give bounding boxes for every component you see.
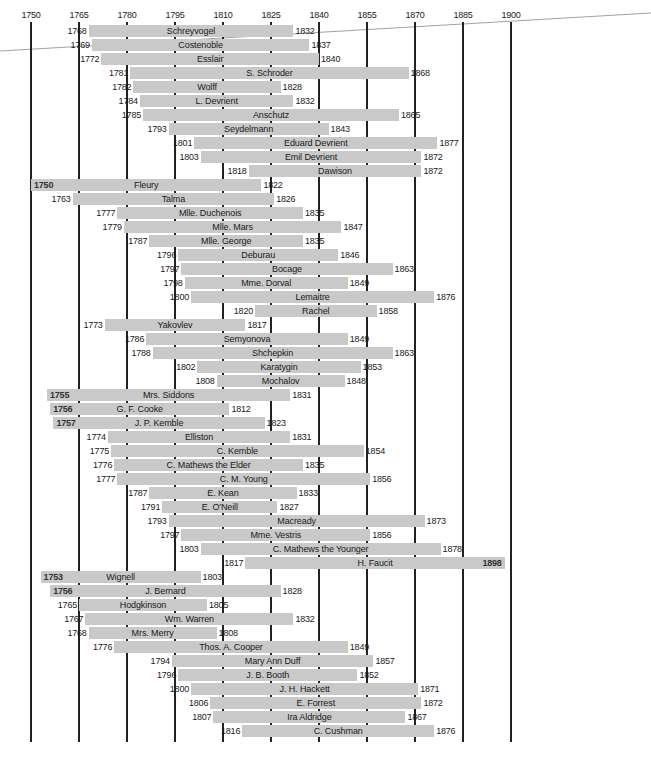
x-tick-label: 1885	[453, 10, 472, 20]
start-year-label: 1768	[67, 25, 86, 37]
end-year-label: 1831	[292, 389, 311, 401]
x-tick-label: 1855	[357, 10, 376, 20]
start-year-label: 1793	[147, 515, 166, 527]
x-tick-label: 1780	[117, 10, 136, 20]
start-year-label: 1756	[53, 585, 72, 597]
bar-name-label: Mary Ann Duff	[245, 655, 301, 667]
x-tick-label: 1900	[501, 10, 520, 20]
end-year-label: 1867	[407, 711, 426, 723]
end-year-label: 1812	[231, 403, 250, 415]
bar-name-label: Mlle. Duchenois	[179, 207, 242, 219]
start-year-label: 1753	[44, 571, 63, 583]
bar-name-label: Mrs. Merry	[132, 627, 174, 639]
end-year-label: 1832	[295, 25, 314, 37]
start-year-label: 1787	[128, 235, 147, 247]
end-year-label: 1835	[305, 207, 324, 219]
end-year-label: 1828	[283, 81, 302, 93]
lifespan-timeline-chart: 1750176517801795181018251840185518701885…	[0, 0, 651, 759]
end-year-label: 1835	[305, 459, 324, 471]
end-year-label: 1835	[305, 235, 324, 247]
start-year-label: 1776	[93, 459, 112, 471]
start-year-label: 1796	[157, 249, 176, 261]
bar-name-label: E. O'Neill	[202, 501, 238, 513]
start-year-label: 1786	[125, 333, 144, 345]
bar-name-label: C. Mathews the Elder	[167, 459, 251, 471]
start-year-label: 1775	[90, 445, 109, 457]
start-year-label: 1797	[160, 529, 179, 541]
end-year-label: 1876	[436, 291, 455, 303]
start-year-label: 1800	[170, 683, 189, 695]
bar-name-label: Semyonova	[224, 333, 271, 345]
start-year-label: 1787	[128, 487, 147, 499]
end-year-label: 1872	[423, 165, 442, 177]
end-year-label: 1828	[283, 585, 302, 597]
bar-name-label: C. Mathews the Younger	[273, 543, 369, 555]
start-year-label: 1763	[51, 193, 70, 205]
x-tick-label: 1765	[69, 10, 88, 20]
end-year-label: 1832	[295, 95, 314, 107]
end-year-label: 1832	[295, 613, 314, 625]
end-year-label: 1849	[350, 641, 369, 653]
start-year-label: 1755	[50, 389, 69, 401]
start-year-label: 1796	[157, 669, 176, 681]
gridline-1750	[30, 22, 31, 742]
start-year-label: 1803	[179, 151, 198, 163]
end-year-label: 1837	[311, 39, 330, 51]
start-year-label: 1817	[224, 557, 243, 569]
end-year-label: 1872	[423, 151, 442, 163]
start-year-label: 1806	[189, 697, 208, 709]
gridline-1900	[510, 22, 511, 742]
end-year-label: 1847	[343, 221, 362, 233]
end-year-label: 1846	[340, 249, 359, 261]
start-year-label: 1798	[163, 277, 182, 289]
bar-name-label: J. H. Hackett	[279, 683, 329, 695]
start-year-label: 1808	[195, 375, 214, 387]
start-year-label: 1793	[147, 123, 166, 135]
gridline-1855	[366, 22, 367, 742]
start-year-label: 1756	[53, 403, 72, 415]
start-year-label: 1801	[173, 137, 192, 149]
start-year-label: 1807	[192, 711, 211, 723]
end-year-label: 1863	[395, 347, 414, 359]
bar-name-label: Hodgkinson	[120, 599, 167, 611]
end-year-label: 1827	[279, 501, 298, 513]
x-tick-label: 1870	[405, 10, 424, 20]
start-year-label: 1767	[64, 613, 83, 625]
end-year-label: 1856	[372, 529, 391, 541]
start-year-label: 1818	[227, 165, 246, 177]
bar-name-label: Seydelmann	[224, 123, 273, 135]
bar-name-label: Mlle. Mars	[212, 221, 253, 233]
x-tick-label: 1750	[21, 10, 40, 20]
bar-name-label: E. Kean	[207, 487, 238, 499]
start-year-label: 1769	[71, 39, 90, 51]
bar-name-label: H. Faucit	[357, 557, 392, 569]
bar-name-label: Mochalov	[262, 375, 300, 387]
start-year-label: 1757	[56, 417, 75, 429]
end-year-label: 1848	[347, 375, 366, 387]
start-year-label: 1803	[179, 543, 198, 555]
end-year-label: 1852	[359, 669, 378, 681]
bar-name-label: Costenoble	[178, 39, 223, 51]
x-tick-label: 1795	[165, 10, 184, 20]
bar-name-label: Macready	[277, 515, 316, 527]
start-year-label: 1820	[234, 305, 253, 317]
start-year-label: 1782	[112, 81, 131, 93]
end-year-label: 1817	[247, 319, 266, 331]
end-year-label: 1856	[372, 473, 391, 485]
end-year-label: 1858	[379, 305, 398, 317]
bar-name-label: C. M. Young	[220, 473, 268, 485]
bar-name-label: Mlle. George	[201, 235, 251, 247]
bar-name-label: L. Devrient	[195, 95, 237, 107]
end-year-label: 1872	[423, 697, 442, 709]
bar-name-label: Dawison	[318, 165, 352, 177]
start-year-label: 1768	[67, 627, 86, 639]
bar-name-label: Shchepkin	[252, 347, 293, 359]
start-year-label: 1774	[87, 431, 106, 443]
end-year-label: 1876	[436, 725, 455, 737]
end-year-label: 1898	[482, 557, 501, 569]
bar-name-label: Mme. Dorval	[241, 277, 291, 289]
end-year-label: 1808	[219, 627, 238, 639]
start-year-label: 1750	[34, 179, 53, 191]
start-year-label: 1779	[103, 221, 122, 233]
end-year-label: 1823	[267, 417, 286, 429]
